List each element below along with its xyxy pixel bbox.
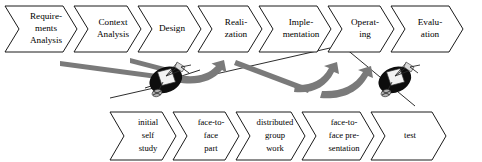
chevron-label-line: mentation: [283, 29, 320, 39]
chevron-label-line: study: [139, 143, 158, 153]
chevron-label-line: face-to-: [331, 117, 358, 127]
flow-arrow-group: [60, 58, 373, 98]
process-phases-row: Require- ments Analysis Context Analysis…: [5, 6, 463, 52]
chevron-label-line: face-to-: [198, 117, 225, 127]
chevron-label-line: distributed: [257, 117, 294, 127]
chevron-label-line: face: [204, 130, 218, 140]
chevron-label-line: Require-: [30, 11, 62, 21]
chevron-label-line: face pre-: [329, 130, 359, 140]
process-diagram: Require- ments Analysis Context Analysis…: [0, 0, 482, 162]
chevron-label-line: ation: [421, 29, 440, 39]
learning-activities-row: initial self study face-to- face part di…: [110, 112, 446, 160]
satellite-dish-right: [374, 61, 420, 98]
flow-arrow-2: [294, 62, 339, 92]
chevron-face-to-face-part[interactable]: face-to- face part: [173, 112, 239, 160]
chevron-evaluation[interactable]: Evalu- ation: [391, 6, 463, 52]
chevron-label-line: zation: [225, 29, 248, 39]
chevron-label-line: Operat-: [351, 17, 379, 27]
diagram-canvas: Require- ments Analysis Context Analysis…: [0, 0, 482, 162]
chevron-design[interactable]: Design: [138, 6, 201, 52]
chevron-label-line: ing: [359, 29, 371, 39]
chevron-context-analysis[interactable]: Context Analysis: [74, 6, 141, 52]
chevron-initial-self-study[interactable]: initial self study: [110, 112, 176, 160]
flow-arrow-1: [176, 60, 227, 84]
chevron-label-line: Evalu-: [418, 17, 443, 27]
chevron-label-line: Analysis: [30, 35, 63, 45]
chevron-distributed-group-work[interactable]: distributed group work: [236, 112, 305, 160]
chevron-label-line: group: [265, 130, 285, 140]
chevron-realization[interactable]: Reali- zation: [198, 6, 262, 52]
chevron-label-line: ments: [35, 23, 57, 33]
chevron-label-line: Imple-: [289, 17, 314, 27]
chevron-label-line: Reali-: [225, 17, 247, 27]
chevron-label-line: test: [404, 130, 417, 140]
chevron-label-line: Design: [159, 23, 185, 33]
chevron-requirements-analysis[interactable]: Require- ments Analysis: [5, 6, 77, 52]
chevron-label-line: part: [204, 143, 218, 153]
chevron-label-line: self: [142, 130, 155, 140]
chevron-label-line: work: [266, 143, 284, 153]
chevron-label-line: Analysis: [97, 29, 130, 39]
chevron-test[interactable]: test: [371, 112, 446, 160]
chevron-implementation[interactable]: Imple- mentation: [259, 6, 331, 52]
chevron-label-line: initial: [138, 117, 159, 127]
chevron-label-line: sentation: [328, 143, 360, 153]
chevron-operating[interactable]: Operat- ing: [328, 6, 394, 52]
chevron-label-line: Context: [98, 17, 128, 27]
chevron-face-to-face-presentation[interactable]: face-to- face pre- sentation: [302, 112, 374, 160]
